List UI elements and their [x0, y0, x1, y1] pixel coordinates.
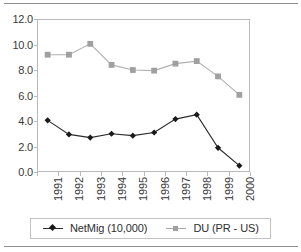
- legend-label-netmig: NetMig (10,000): [70, 223, 147, 234]
- diamond-marker-icon: [66, 131, 72, 137]
- diamond-marker-icon: [108, 131, 114, 137]
- x-tick-label: 1993: [96, 177, 107, 201]
- x-tick-label: 1996: [160, 177, 171, 201]
- series-du: [45, 41, 243, 98]
- square-marker-icon: [130, 67, 136, 73]
- diamond-marker-icon: [194, 112, 200, 118]
- y-tick-label: 4.0: [0, 116, 33, 127]
- x-tick-mark: [122, 172, 123, 176]
- series-line: [48, 44, 240, 95]
- x-tick-mark: [250, 172, 251, 176]
- x-tick-mark: [165, 172, 166, 176]
- y-tick-label: 8.0: [0, 65, 33, 76]
- legend-entry-netmig: NetMig (10,000): [43, 223, 147, 234]
- x-tick-mark: [229, 172, 230, 176]
- x-tick-mark: [80, 172, 81, 176]
- chart-figure: 12.010.08.06.04.02.00.0 1991199219931994…: [0, 0, 301, 252]
- x-tick-label: 1997: [181, 177, 192, 201]
- x-tick-label: 1991: [53, 177, 64, 201]
- bottom-divider-rule: [4, 246, 298, 247]
- square-marker-icon: [173, 226, 178, 231]
- y-tick-label: 2.0: [0, 141, 33, 152]
- x-tick-label: 1995: [138, 177, 149, 201]
- legend-entry-du: DU (PR - US): [166, 223, 258, 234]
- diamond-marker-icon: [87, 134, 93, 140]
- x-axis-labels: 1991199219931994199519961997199819992000: [37, 177, 250, 213]
- square-marker-icon: [215, 73, 221, 79]
- legend-line-du: [166, 228, 186, 229]
- x-tick-label: 1998: [202, 177, 213, 201]
- y-tick-label: 12.0: [0, 14, 33, 25]
- series-netmig: [45, 112, 243, 169]
- legend-label-du: DU (PR - US): [193, 223, 258, 234]
- diamond-marker-icon: [172, 116, 178, 122]
- plot-series-canvas: [37, 19, 250, 172]
- x-tick-mark: [207, 172, 208, 176]
- x-tick-mark: [186, 172, 187, 176]
- x-tick-label: 2000: [245, 177, 256, 201]
- x-axis-ticks: [37, 172, 250, 176]
- square-marker-icon: [45, 52, 51, 58]
- square-marker-icon: [66, 52, 72, 58]
- diamond-marker-icon: [49, 224, 56, 231]
- square-marker-icon: [194, 58, 200, 64]
- chart-legend: NetMig (10,000) DU (PR - US): [30, 218, 271, 239]
- square-marker-icon: [236, 92, 242, 98]
- diamond-marker-icon: [45, 117, 51, 123]
- x-tick-label: 1994: [117, 177, 128, 201]
- top-divider-rule: [4, 3, 298, 4]
- x-tick-label: 1999: [224, 177, 235, 201]
- x-tick-label: 1992: [74, 177, 85, 201]
- square-marker-icon: [87, 41, 93, 47]
- x-tick-mark: [37, 172, 38, 176]
- y-tick-label: 6.0: [0, 90, 33, 101]
- diamond-marker-icon: [151, 129, 157, 135]
- y-axis: 12.010.08.06.04.02.00.0: [0, 19, 33, 172]
- x-tick-mark: [101, 172, 102, 176]
- diamond-marker-icon: [130, 133, 136, 139]
- legend-line-netmig: [43, 228, 63, 229]
- x-tick-mark: [144, 172, 145, 176]
- y-tick-label: 0.0: [0, 167, 33, 178]
- series-line: [48, 115, 240, 166]
- y-tick-label: 10.0: [0, 39, 33, 50]
- square-marker-icon: [151, 68, 157, 74]
- square-marker-icon: [109, 62, 115, 68]
- square-marker-icon: [173, 61, 179, 67]
- x-tick-mark: [58, 172, 59, 176]
